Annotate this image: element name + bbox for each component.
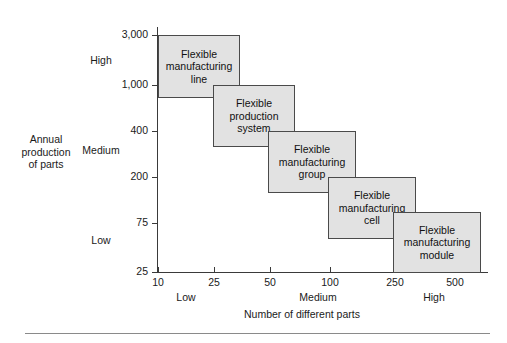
x-tick-mark bbox=[330, 267, 331, 273]
y-tick-label-text: 3,000 bbox=[88, 29, 148, 40]
x-category-high: High bbox=[394, 291, 474, 303]
x-tick-mark bbox=[158, 267, 159, 273]
y-tick-label: 200 bbox=[88, 171, 148, 182]
chart-box-flexible-manufacturing-module: Flexible manufacturing module bbox=[393, 212, 481, 273]
y-tick-label: 75 bbox=[88, 217, 148, 228]
y-tick-mark bbox=[152, 223, 158, 224]
x-tick-label: 500 bbox=[425, 276, 485, 288]
bottom-divider bbox=[25, 333, 490, 334]
x-tick-label: 250 bbox=[365, 276, 425, 288]
chart-box-label: Flexible manufacturing group bbox=[277, 143, 348, 181]
x-tick-mark bbox=[214, 267, 215, 273]
y-tick-label-text: 400 bbox=[88, 125, 148, 136]
chart-box-label: Flexible manufacturing line bbox=[164, 48, 235, 86]
x-axis-title: Number of different parts bbox=[212, 308, 392, 320]
chart-box-label: Flexible manufacturing module bbox=[402, 224, 473, 262]
y-category-high: High bbox=[70, 54, 132, 66]
x-category-low: Low bbox=[146, 291, 226, 303]
x-tick-mark bbox=[270, 267, 271, 273]
x-tick-label: 100 bbox=[300, 276, 360, 288]
y-tick-label-text: 200 bbox=[88, 171, 148, 182]
y-tick-mark bbox=[152, 131, 158, 132]
y-tick-label: 3,000 bbox=[88, 29, 148, 40]
x-tick-label: 25 bbox=[184, 276, 244, 288]
y-tick-mark bbox=[152, 177, 158, 178]
y-category-low: Low bbox=[70, 234, 132, 246]
x-tick-label: 10 bbox=[128, 276, 188, 288]
y-axis-title: Annual production of parts bbox=[8, 133, 84, 171]
x-tick-label: 50 bbox=[240, 276, 300, 288]
y-tick-label-text: 75 bbox=[88, 217, 148, 228]
x-category-medium: Medium bbox=[278, 291, 358, 303]
y-tick-label-text: 1,000 bbox=[88, 79, 148, 90]
chart-box-label: Flexible production system bbox=[227, 97, 280, 135]
y-tick-label: 400 bbox=[88, 125, 148, 136]
figure-container: 3,000 1,000 400 200 75 25 High Medium Lo… bbox=[0, 0, 507, 343]
y-tick-label: 1,000 bbox=[88, 79, 148, 90]
